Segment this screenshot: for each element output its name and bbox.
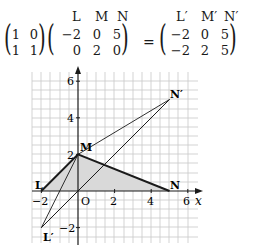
- y-tick-neg2: −2: [59, 222, 75, 235]
- coordinate-graph: −2 2 4 6 x 6 4 2 −2 O L M N L′ N′: [0, 0, 253, 250]
- x-tick-6: 6: [183, 195, 190, 208]
- point-M-label: M: [80, 141, 92, 154]
- x-tick-neg2: −2: [32, 195, 48, 208]
- point-L-label: L: [35, 179, 43, 192]
- y-tick-2: 2: [67, 149, 74, 162]
- y-tick-4: 4: [67, 112, 74, 125]
- x-axis-label: x: [195, 194, 202, 208]
- y-tick-6: 6: [67, 75, 74, 88]
- origin-label: O: [81, 195, 90, 208]
- y-axis-arrow-icon: [75, 66, 81, 74]
- point-Lprime-label: L′: [43, 231, 54, 244]
- x-tick-4: 4: [147, 195, 154, 208]
- x-tick-2: 2: [110, 195, 117, 208]
- point-N-label: N: [170, 179, 180, 192]
- line-y-equals-x: [41, 100, 169, 228]
- point-Nprime-label: N′: [170, 88, 183, 101]
